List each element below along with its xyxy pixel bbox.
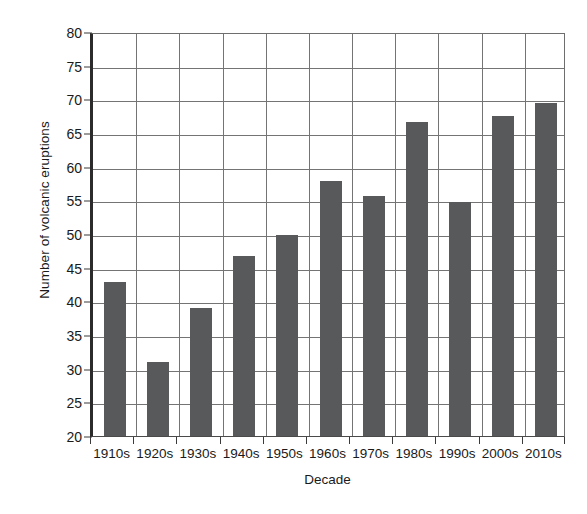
bar-chart: Number of volcanic eruptions 80757065605… <box>0 0 587 514</box>
x-axis-tick-mark <box>263 437 264 444</box>
y-axis-tick-label: 75 <box>66 60 82 74</box>
bar <box>406 122 428 436</box>
y-axis-tick-label: 40 <box>66 295 82 309</box>
x-axis-tick-mark <box>90 437 91 444</box>
y-axis-tick-label: 80 <box>66 26 82 40</box>
x-axis-tick-label: 2000s <box>482 445 519 463</box>
x-axis-tick-mark <box>522 437 523 444</box>
y-axis-tick-label: 30 <box>66 363 82 377</box>
x-axis-tick-mark <box>564 437 565 444</box>
x-axis-tick-mark <box>392 437 393 444</box>
x-axis-tick-label: 1990s <box>439 445 476 463</box>
y-axis-tick-label: 20 <box>66 430 82 444</box>
x-axis-tick-label: 1980s <box>395 445 432 463</box>
bar <box>449 202 471 436</box>
x-axis-tick-mark <box>306 437 307 444</box>
x-axis-tick-label: 1910s <box>93 445 130 463</box>
bar-series <box>93 34 564 436</box>
x-axis-tick-label: 1950s <box>266 445 303 463</box>
bar <box>233 256 255 436</box>
x-axis-tick-mark <box>133 437 134 444</box>
y-axis-tick-label: 45 <box>66 262 82 276</box>
bar <box>276 235 298 436</box>
x-axis-tick-label: 1970s <box>352 445 389 463</box>
y-axis-tick-label: 50 <box>66 228 82 242</box>
plot-area <box>90 33 565 437</box>
bar <box>104 282 126 436</box>
x-axis-tick-mark <box>349 437 350 444</box>
x-axis-tick-mark <box>435 437 436 444</box>
y-axis-tick-label: 70 <box>66 93 82 107</box>
x-axis-title: Decade <box>90 472 565 487</box>
y-axis-tick-label: 55 <box>66 194 82 208</box>
y-axis-tick-labels: 80757065605550454035302520 <box>52 33 82 437</box>
x-axis-tick-label: 1960s <box>309 445 346 463</box>
x-axis-tick-mark <box>479 437 480 444</box>
y-axis-tick-label: 35 <box>66 329 82 343</box>
x-axis-tick-mark <box>176 437 177 444</box>
x-axis-tick-marks <box>90 437 565 444</box>
x-axis-tick-label: 1930s <box>180 445 217 463</box>
y-axis-tick-label: 60 <box>66 161 82 175</box>
x-axis-tick-label: 1920s <box>136 445 173 463</box>
bar <box>190 308 212 436</box>
y-axis-tick-label: 25 <box>66 396 82 410</box>
x-axis-tick-label: 2010s <box>525 445 562 463</box>
x-axis-tick-labels: 1910s1920s1930s1940s1950s1960s1970s1980s… <box>90 445 565 465</box>
y-axis-tick-label: 65 <box>66 127 82 141</box>
x-axis-tick-label: 1940s <box>223 445 260 463</box>
x-axis-tick-mark <box>220 437 221 444</box>
bar <box>363 196 385 436</box>
bar <box>147 362 169 436</box>
bar <box>320 181 342 436</box>
bar <box>492 116 514 437</box>
bar <box>535 103 557 436</box>
